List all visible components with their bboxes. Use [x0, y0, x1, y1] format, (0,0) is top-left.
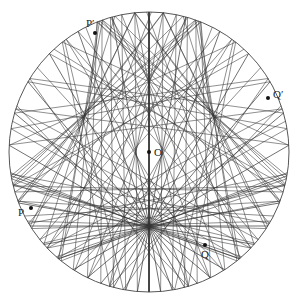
label-p-prime: P′: [86, 17, 95, 29]
point-q-prime: [266, 96, 270, 100]
label-q: Q: [201, 248, 209, 260]
point-q: [203, 243, 207, 247]
label-p: P: [18, 206, 24, 218]
point-p: [29, 206, 33, 210]
point-p-prime: [93, 31, 97, 35]
caustic-diagram: OPP′QQ′: [0, 0, 299, 308]
label-q-prime: Q′: [273, 88, 283, 100]
point-o: [147, 150, 151, 154]
label-o: O: [154, 146, 162, 158]
